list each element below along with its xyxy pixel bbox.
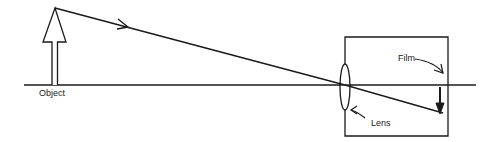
ray-direction-arrow-icon <box>117 19 128 29</box>
lens-pointer-arrowhead-icon <box>351 106 357 114</box>
diagram-canvas <box>0 0 498 142</box>
camera-box <box>345 37 448 136</box>
film-pointer-curve <box>415 59 443 73</box>
lens-label: Lens <box>371 119 391 128</box>
object-label: Object <box>39 89 65 98</box>
light-ray <box>55 8 443 113</box>
object-arrow-icon <box>43 8 66 85</box>
lens-shape <box>340 64 350 110</box>
camera-optics-diagram: Object Lens Film <box>0 0 498 142</box>
film-label: Film <box>398 54 415 63</box>
